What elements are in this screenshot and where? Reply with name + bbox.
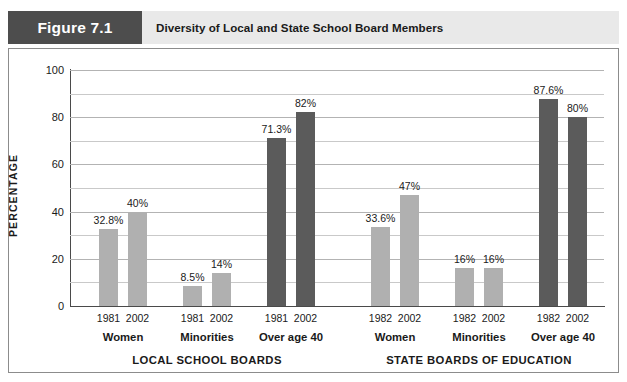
bar: 32.8% [99,70,118,306]
bar-value-label: 16% [454,253,475,265]
bar-value-label: 80% [567,102,588,114]
bar-value-label: 8.5% [181,271,205,283]
x-axis-group-label: STATE BOARDS OF EDUCATION [386,354,572,366]
x-axis-year-label: 1982 [453,312,476,324]
gridline-minor [70,94,604,95]
bar: 16% [484,70,503,306]
x-axis-category-label: Minorities [452,331,505,343]
x-axis-group-label: LOCAL SCHOOL BOARDS [132,354,282,366]
x-axis-category-label: Women [375,331,416,343]
bar-rect [296,112,315,306]
bar-rect [484,268,503,306]
x-axis-category-label: Over age 40 [259,331,323,343]
bar-rect [400,195,419,306]
x-axis-year-label: 2002 [294,312,317,324]
bar-rect [455,268,474,306]
y-axis-title: PERCENTAGE [7,154,19,237]
x-axis-year-label: 1982 [537,312,560,324]
gridline-major [70,70,604,71]
gridline-major [70,117,604,118]
bar-rect [568,117,587,306]
x-axis-year-label: 1981 [265,312,288,324]
gridline-minor [70,282,604,283]
figure-number-label: Figure 7.1 [37,19,112,37]
x-axis-year-label: 2002 [398,312,421,324]
gridline-major [70,164,604,165]
bar-rect [183,286,202,306]
bar-value-label: 71.3% [262,123,292,135]
plot-area: 32.8%40%8.5%14%71.3%82%33.6%47%16%16%87.… [70,70,604,306]
gridline-major [70,212,604,213]
bar: 71.3% [267,70,286,306]
gridline-minor [70,188,604,189]
bar-value-label: 47% [399,180,420,192]
x-axis-year-label: 1982 [369,312,392,324]
x-axis-year-label: 2002 [210,312,233,324]
bar-value-label: 40% [127,197,148,209]
bar-rect [212,273,231,306]
gridline-minor [70,141,604,142]
bar-rect [371,227,390,306]
bar: 47% [400,70,419,306]
y-axis-tick-label: 40 [24,206,64,218]
x-axis-year-label: 2002 [566,312,589,324]
gridline-major [70,259,604,260]
bar-rect [128,212,147,306]
bar: 40% [128,70,147,306]
bar-rect [539,99,558,306]
figure-title: Diversity of Local and State School Boar… [156,11,443,44]
x-axis-category-label: Over age 40 [531,331,595,343]
bar-value-label: 16% [483,253,504,265]
figure-container: Figure 7.1 Diversity of Local and State … [0,0,627,382]
bar: 8.5% [183,70,202,306]
figure-number-badge: Figure 7.1 [8,11,142,44]
y-axis-tick-label: 20 [24,253,64,265]
bar-value-label: 32.8% [94,214,124,226]
y-axis-tick-label: 80 [24,111,64,123]
bar-rect [267,138,286,306]
x-axis-category-label: Minorities [180,331,233,343]
bar-value-label: 82% [295,97,316,109]
x-axis-year-label: 2002 [482,312,505,324]
x-axis-line [70,306,605,307]
bar: 33.6% [371,70,390,306]
bar: 16% [455,70,474,306]
bar: 82% [296,70,315,306]
bar-value-label: 87.6% [534,84,564,96]
y-axis-tick-label: 0 [24,300,64,312]
x-axis-year-label: 2002 [126,312,149,324]
y-axis-tick-label: 60 [24,158,64,170]
x-axis-year-label: 1981 [97,312,120,324]
gridline-minor [70,235,604,236]
x-axis-category-label: Women [103,331,144,343]
bar-rect [99,229,118,306]
bar-value-label: 14% [211,258,232,270]
bar: 14% [212,70,231,306]
y-axis-tick-label: 100 [24,64,64,76]
bar: 87.6% [539,70,558,306]
x-axis-year-label: 1981 [181,312,204,324]
bar: 80% [568,70,587,306]
bar-value-label: 33.6% [366,212,396,224]
